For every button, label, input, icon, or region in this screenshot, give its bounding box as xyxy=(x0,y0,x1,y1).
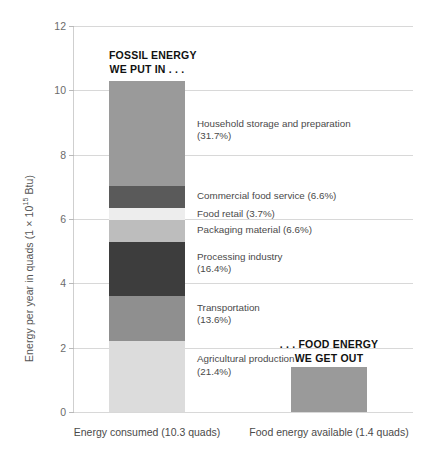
y-tick-label-6: 6 xyxy=(60,213,66,225)
segment-label-commercial-food-service-line1: Commercial food service (6.6%) xyxy=(197,190,336,202)
tick-mark-4 xyxy=(69,283,74,284)
category-label-energy-consumed: Energy consumed (10.3 quads) xyxy=(74,426,221,438)
tick-mark-6 xyxy=(69,219,74,220)
energy-flow-stacked-bar-chart: Energy per year in quads (1 × 1015 Btu) … xyxy=(0,0,430,455)
segment-commercial-food-service[interactable]: Commercial food service (6.6%) xyxy=(109,186,185,208)
bar-food-energy-available[interactable]: Food energy available (1.4 quads) xyxy=(291,367,367,412)
tick-mark-10 xyxy=(69,90,74,91)
callout-food-energy-output: . . . FOOD ENERGY WE GET OUT xyxy=(269,337,389,365)
segment-processing-industry[interactable]: Processing industry (16.4%) xyxy=(109,242,185,296)
y-tick-label-10: 10 xyxy=(54,84,66,96)
segment-label-food-retail-line1: Food retail (3.7%) xyxy=(197,208,275,220)
segment-label-household-storage-and-preparation: Household storage and preparation (31.7%… xyxy=(197,118,351,143)
segment-label-household-line1: Household storage and preparation xyxy=(197,118,351,130)
tick-mark-2 xyxy=(69,348,74,349)
callout-output-line1: . . . FOOD ENERGY xyxy=(269,337,389,351)
callout-input-line2: WE PUT IN . . . xyxy=(109,62,185,76)
gridline-0: 0 xyxy=(73,412,413,413)
y-tick-label-2: 2 xyxy=(60,342,66,354)
y-tick-label-8: 8 xyxy=(60,149,66,161)
callout-fossil-energy-input: FOSSIL ENERGY WE PUT IN . . . xyxy=(109,48,185,76)
callout-output-line2: WE GET OUT xyxy=(269,351,389,365)
tick-mark-12 xyxy=(69,26,74,27)
y-axis-title-exponent: 15 xyxy=(22,198,29,206)
segment-label-agricultural-production-line2: (21.4%) xyxy=(197,366,294,378)
y-axis-title-suffix: Btu) xyxy=(23,175,35,198)
segment-food-energy-available[interactable] xyxy=(291,367,367,412)
segment-packaging-material[interactable]: Packaging material (6.6%) xyxy=(109,220,185,242)
segment-household-storage-and-preparation[interactable]: Household storage and preparation (31.7%… xyxy=(109,81,185,186)
bar-energy-consumed[interactable]: Agricultural production (21.4%) Transpor… xyxy=(109,81,185,412)
y-tick-label-12: 12 xyxy=(54,20,66,32)
segment-label-processing-industry-line2: (16.4%) xyxy=(197,263,283,275)
segment-label-processing-industry: Processing industry (16.4%) xyxy=(197,251,283,276)
y-tick-label-0: 0 xyxy=(60,406,66,418)
segment-label-commercial-food-service: Commercial food service (6.6%) xyxy=(197,190,336,202)
tick-mark-8 xyxy=(69,155,74,156)
category-label-food-energy-available: Food energy available (1.4 quads) xyxy=(249,426,408,438)
segment-label-household-line2: (31.7%) xyxy=(197,130,351,142)
segment-agricultural-production[interactable]: Agricultural production (21.4%) xyxy=(109,341,185,412)
gridline-12: 12 xyxy=(73,26,413,27)
segment-label-packaging-material: Packaging material (6.6%) xyxy=(197,224,312,236)
segment-label-transportation: Transportation (13.6%) xyxy=(197,302,260,327)
segment-transportation[interactable]: Transportation (13.6%) xyxy=(109,296,185,341)
y-tick-label-4: 4 xyxy=(60,277,66,289)
segment-label-packaging-material-line1: Packaging material (6.6%) xyxy=(197,224,312,236)
segment-label-transportation-line1: Transportation xyxy=(197,302,260,314)
plot-area: 12 10 8 6 4 2 0 xyxy=(73,26,413,412)
segment-label-transportation-line2: (13.6%) xyxy=(197,314,260,326)
callout-input-line1: FOSSIL ENERGY xyxy=(109,48,185,62)
tick-mark-0 xyxy=(69,412,74,413)
segment-food-retail[interactable]: Food retail (3.7%) xyxy=(109,208,185,220)
y-axis-title-prefix: Energy per year in quads (1 × 10 xyxy=(23,206,35,362)
y-axis-title: Energy per year in quads (1 × 1015 Btu) xyxy=(22,62,36,362)
segment-label-food-retail: Food retail (3.7%) xyxy=(197,208,275,220)
segment-label-processing-industry-line1: Processing industry xyxy=(197,251,283,263)
